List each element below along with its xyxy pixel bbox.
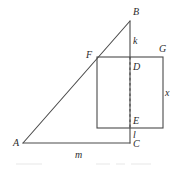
point-label-d: D bbox=[133, 62, 140, 72]
scan-artifact bbox=[131, 163, 151, 165]
point-label-c: C bbox=[133, 139, 140, 149]
scan-artifact bbox=[96, 163, 110, 165]
point-label-f: F bbox=[86, 50, 92, 60]
segment-ab-hypotenuse bbox=[23, 21, 130, 143]
point-label-a: A bbox=[13, 138, 19, 148]
scan-artifact bbox=[116, 163, 125, 165]
length-label-m: m bbox=[75, 150, 82, 160]
scan-artifact bbox=[16, 163, 42, 165]
length-label-l: l bbox=[133, 130, 136, 140]
point-label-b: B bbox=[133, 7, 139, 17]
geometry-figure: A B C D E F G k x l m bbox=[0, 0, 177, 173]
point-label-e: E bbox=[133, 116, 139, 126]
point-label-g: G bbox=[159, 44, 166, 54]
diagram-canvas bbox=[0, 0, 177, 173]
length-label-x: x bbox=[165, 88, 169, 98]
length-label-k: k bbox=[133, 36, 137, 46]
